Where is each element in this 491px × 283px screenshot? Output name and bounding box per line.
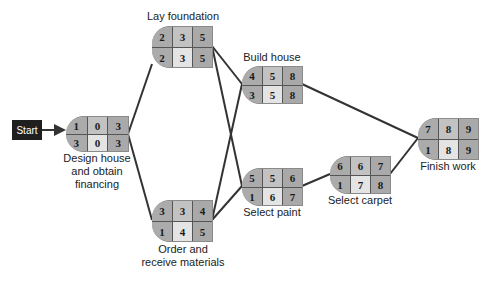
cell-earliest-finish: 5 <box>192 27 212 47</box>
cell-earliest-finish: 4 <box>192 201 212 221</box>
cell-latest-finish: 9 <box>458 139 478 159</box>
cell-latest-start: 5 <box>262 85 282 103</box>
node-select-paint: 5 5 6 1 6 7 <box>242 168 303 206</box>
cell-latest-finish: 3 <box>107 134 128 151</box>
start-node: Start <box>12 120 42 140</box>
cell-latest-finish: 5 <box>192 221 212 241</box>
node-order-materials: 3 3 4 1 4 5 <box>152 200 213 242</box>
label-design-house: Design house and obtain financing <box>56 152 138 191</box>
cell-earliest-start: 8 <box>438 119 458 139</box>
label-finish-work: Finish work <box>412 160 484 173</box>
cell-latest-start: 0 <box>87 134 108 151</box>
node-finish-work: 7 8 9 1 8 9 <box>418 118 479 160</box>
cell-earliest-finish: 8 <box>282 67 302 85</box>
node-design-house: 1 0 3 3 0 3 <box>66 116 129 152</box>
cell-earliest-start: 6 <box>350 157 370 175</box>
cell-earliest-start: 3 <box>172 201 192 221</box>
label-select-paint: Select paint <box>234 206 310 219</box>
cell-earliest-start: 5 <box>262 67 282 85</box>
cell-latest-start: 4 <box>172 221 192 241</box>
node-build-house: 4 5 8 3 5 8 <box>242 66 303 104</box>
label-lay-foundation: Lay foundation <box>138 10 228 23</box>
start-label: Start <box>16 125 37 136</box>
cell-latest-finish: 8 <box>370 175 390 193</box>
edge-design-foundation <box>128 64 152 134</box>
cell-earliest-finish: 7 <box>370 157 390 175</box>
label-order-materials: Order and receive materials <box>128 243 238 269</box>
cell-latest-start: 3 <box>172 47 192 67</box>
node-lay-foundation: 2 3 5 2 3 5 <box>152 26 213 68</box>
cell-earliest-start: 0 <box>87 117 108 134</box>
cell-earliest-finish: 3 <box>107 117 128 134</box>
node-select-carpet: 6 6 7 1 7 8 <box>330 156 391 194</box>
edge-paint-carpet <box>302 174 330 186</box>
cell-earliest-start: 5 <box>262 169 282 187</box>
cell-latest-start: 6 <box>262 187 282 205</box>
edge-order-build <box>212 84 242 220</box>
label-select-carpet: Select carpet <box>322 194 398 207</box>
cell-earliest-finish: 6 <box>282 169 302 187</box>
cell-latest-start: 7 <box>350 175 370 193</box>
cell-earliest-finish: 9 <box>458 119 478 139</box>
label-build-house: Build house <box>236 51 308 64</box>
cell-latest-finish: 8 <box>282 85 302 103</box>
cell-latest-start: 8 <box>438 139 458 159</box>
edge-foundation-paint <box>212 46 242 186</box>
cell-latest-finish: 5 <box>192 47 212 67</box>
cell-earliest-start: 3 <box>172 27 192 47</box>
cell-latest-finish: 7 <box>282 187 302 205</box>
edge-build-finish <box>302 84 418 138</box>
